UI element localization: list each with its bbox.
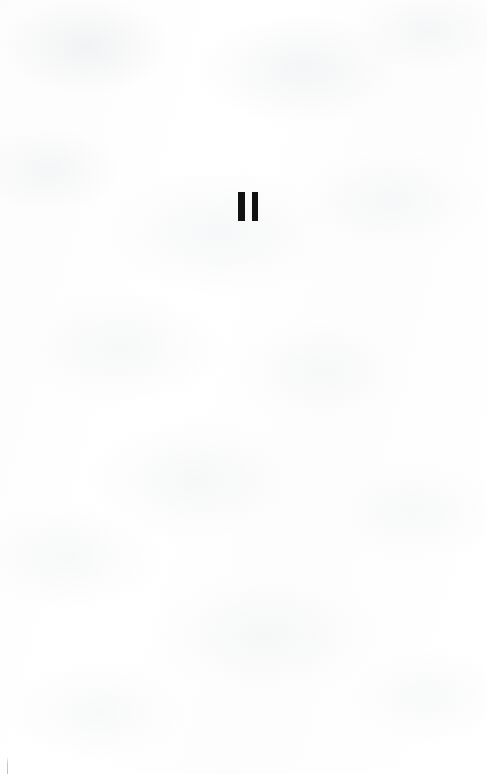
numeral-stroke-right <box>252 192 259 221</box>
numeral-stroke-left <box>238 192 245 221</box>
book-part-divider-page: II <box>0 0 487 774</box>
part-number-roman-numeral: II <box>238 192 258 221</box>
scan-artifact-hairline <box>7 757 8 774</box>
